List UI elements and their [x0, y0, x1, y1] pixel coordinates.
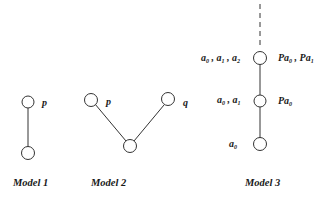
model-1-node-bottom: [22, 147, 35, 160]
model-1-graph: [22, 96, 35, 160]
model-3-graph: [254, 4, 267, 151]
model-2-node-left: [85, 94, 98, 107]
separator: ,: [292, 52, 300, 63]
separator: ,: [225, 94, 233, 105]
model-3-right-label-middle: Pa0: [278, 96, 292, 109]
model-2-graph: [85, 93, 175, 153]
subscript: 0: [234, 144, 237, 150]
model-3-node-middle: [254, 95, 266, 107]
symbol-pa: Pa: [300, 52, 311, 63]
model-3-left-label-top: a0 , a1 , a2: [201, 53, 240, 66]
model-2-edge-right: [134, 105, 164, 141]
model-3-left-label-middle: a0 , a1: [217, 95, 241, 108]
model-2-node-right: [162, 93, 175, 106]
subscript: 2: [237, 58, 240, 64]
subscript: 1: [238, 100, 241, 106]
model-3-node-top: [254, 52, 267, 65]
separator: ,: [225, 52, 233, 63]
model-2-node-bottom: [124, 140, 137, 153]
symbol-pa: Pa: [278, 52, 289, 63]
model-3-caption: Model 3: [245, 177, 280, 188]
model-1-node-top: [22, 96, 34, 108]
subscript: 0: [289, 101, 292, 107]
model-1-caption: Model 1: [13, 177, 48, 188]
model-1-node-label-p: p: [42, 98, 47, 108]
model-3-left-label-bottom: a0: [229, 139, 237, 152]
model-2-edge-left: [95, 104, 126, 141]
model-3-node-bottom: [254, 138, 267, 151]
model-2-node-label-p: p: [106, 97, 111, 107]
model-2-caption: Model 2: [91, 177, 126, 188]
model-3-right-label-top: Pa0 , Pa1: [278, 53, 314, 66]
separator: ,: [209, 52, 217, 63]
symbol-pa: Pa: [278, 95, 289, 106]
model-2-node-label-q: q: [183, 98, 188, 108]
subscript: 1: [311, 58, 314, 64]
